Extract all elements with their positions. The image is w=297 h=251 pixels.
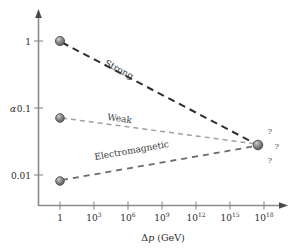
curve-label-weak: Weak	[107, 112, 133, 125]
x-tick-label-10e9: 109	[154, 211, 169, 223]
x-tick-base: 1	[57, 213, 63, 223]
y-tick-label-0p1: 0.1	[17, 104, 31, 114]
annotation-question-right: ?	[275, 142, 279, 151]
annotation-question-below: ?	[268, 156, 272, 165]
x-tick-base: 10	[86, 213, 98, 223]
x-tick-label-10e12: 1012	[186, 211, 205, 223]
bottom-margin-strip	[0, 245, 297, 251]
series-line-strong	[62, 43, 256, 145]
x-tick-exponent: 15	[232, 211, 240, 218]
y-axis-arrowhead	[35, 9, 42, 18]
x-axis-label: Δp (GeV)	[141, 232, 184, 243]
data-point-electromagnetic-start[interactable]	[56, 177, 65, 186]
x-tick-label-10e15: 1015	[220, 211, 239, 223]
plot-canvas: 1 0.1 0.01 α 1 103 106	[0, 0, 297, 251]
x-tick-label-1: 1	[57, 213, 63, 223]
y-axis-label: α	[10, 104, 16, 114]
x-tick-exponent: 3	[98, 211, 102, 218]
x-tick-base: 10	[220, 213, 232, 223]
series-line-electromagnetic	[62, 146, 256, 180]
data-point-weak-start[interactable]	[56, 114, 65, 123]
figure-unification-plot: 1 0.1 0.01 α 1 103 106	[0, 0, 297, 251]
annotations-group: ? ? ?	[268, 127, 279, 165]
x-tick-label-10e3: 103	[86, 211, 101, 223]
x-tick-base: 10	[120, 213, 132, 223]
x-tick-exponent: 6	[132, 211, 136, 218]
data-point-strong-start[interactable]	[55, 36, 64, 45]
series-lines-group	[62, 43, 256, 181]
curve-label-strong: Strong	[103, 58, 135, 81]
annotation-question-above: ?	[268, 127, 272, 136]
x-tick-label-10e18: 1018	[254, 211, 273, 223]
x-axis-arrowhead	[279, 202, 288, 209]
x-tick-exponent: 12	[198, 211, 206, 218]
x-tick-exponent: 18	[266, 211, 274, 218]
x-axis-label-unit: (GeV)	[154, 232, 185, 243]
x-tick-base: 10	[154, 213, 166, 223]
x-tick-base: 10	[186, 213, 198, 223]
y-tick-label-1: 1	[25, 37, 31, 47]
data-point-convergence[interactable]	[253, 140, 263, 150]
y-tick-label-0p01: 0.01	[11, 171, 31, 181]
x-tick-base: 10	[254, 213, 266, 223]
data-markers-group	[55, 36, 262, 185]
x-tick-label-10e6: 106	[120, 211, 135, 223]
curve-labels-group: Strong Weak Electromagnetic	[94, 58, 170, 162]
curve-label-electromagnetic: Electromagnetic	[94, 139, 170, 162]
x-tick-exponent: 9	[166, 211, 170, 218]
